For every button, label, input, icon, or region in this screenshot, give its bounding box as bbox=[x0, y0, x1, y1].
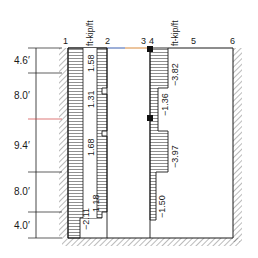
mid-node-marker bbox=[147, 115, 153, 121]
node-label-6: 6 bbox=[230, 36, 235, 46]
dim-label-1: 8.0′ bbox=[14, 90, 30, 101]
right-value-2: −3.97 bbox=[170, 145, 180, 168]
unit-label-left: ft-kip/ft bbox=[85, 20, 95, 46]
left-value-0: 1.58 bbox=[86, 54, 96, 72]
left-value-3: 1.18 bbox=[91, 194, 101, 212]
node-label-3: 3 bbox=[141, 36, 146, 46]
node-label-4: 4 bbox=[149, 36, 154, 46]
right-wall-hatch bbox=[233, 48, 242, 242]
node-label-1: 1 bbox=[63, 36, 68, 46]
left-value-4: −2.11 bbox=[81, 208, 91, 230]
dim-label-4: 4.0′ bbox=[14, 220, 30, 231]
left-value-2: 1.68 bbox=[86, 138, 96, 156]
dimension-line bbox=[28, 48, 62, 238]
right-value-3: −1.50 bbox=[157, 195, 167, 218]
node-label-5: 5 bbox=[191, 36, 196, 46]
dim-label-2: 9.4′ bbox=[14, 140, 30, 151]
top-node-marker bbox=[147, 46, 153, 52]
left-panel-label-band bbox=[83, 48, 97, 218]
node-label-2: 2 bbox=[105, 36, 110, 46]
moment-diagram: 4.6′ 8.0′ 9.4′ 8.0′ 4.0′ 1 2 3 4 5 6 ft-… bbox=[0, 0, 258, 258]
right-value-0: −3.82 bbox=[170, 63, 180, 86]
ground-hatch bbox=[62, 238, 240, 246]
right-value-1: −1.36 bbox=[160, 93, 170, 116]
dim-label-0: 4.6′ bbox=[14, 55, 30, 66]
left-wall-hatch bbox=[59, 48, 68, 238]
dim-label-3: 8.0′ bbox=[14, 186, 30, 197]
unit-label-right: ft-kip/ft bbox=[170, 20, 180, 46]
right-panel-shape bbox=[150, 48, 168, 220]
left-value-1: 1.31 bbox=[86, 90, 96, 108]
